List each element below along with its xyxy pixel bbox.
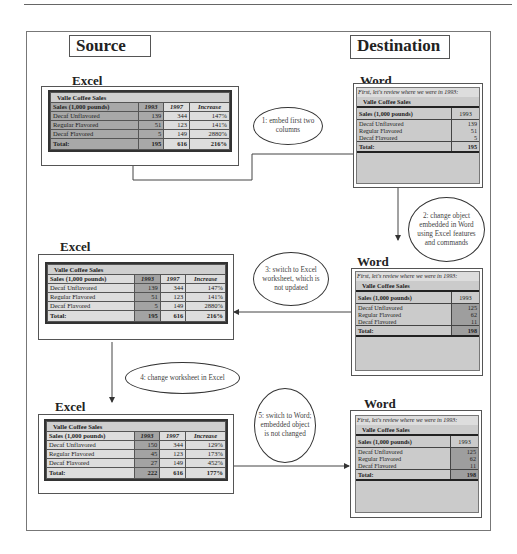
table-row: Decaf Flavored51492880% xyxy=(48,302,226,311)
cell-1997[interactable]: 149 xyxy=(160,459,186,468)
word-table-unchanged: First, let's review where we were in 199… xyxy=(355,415,479,513)
row-label: Regular Flavored xyxy=(356,311,451,318)
row-label: Decaf Unflavored xyxy=(356,448,451,456)
total-label: Total: xyxy=(357,142,452,153)
table-row: Regular Flavored51123141% xyxy=(51,121,230,130)
row-label: Decaf Flavored xyxy=(356,318,451,326)
column-header-1997: 1997 xyxy=(160,275,186,284)
row-label: Regular Flavored xyxy=(356,455,451,462)
destination-header: Destination xyxy=(350,35,450,59)
total-1997[interactable]: 616 xyxy=(160,468,186,479)
cell-1997[interactable]: 344 xyxy=(164,112,190,121)
excel-label: Excel xyxy=(60,240,90,254)
cell-1997[interactable]: 344 xyxy=(160,284,186,293)
cell-1993[interactable]: 51 xyxy=(135,293,161,302)
cell-1993: 125 xyxy=(451,448,478,456)
table-row: Regular Flavored51123141% xyxy=(48,293,226,302)
step-3-ellipse: 3: switch to Excel worksheet, which is n… xyxy=(253,252,329,306)
column-header-label: Sales (1,000 pounds) xyxy=(357,107,452,120)
source-header: Source xyxy=(69,35,151,57)
total-1997[interactable]: 616 xyxy=(160,311,186,322)
excel-label: Excel xyxy=(55,400,85,414)
cell-1993[interactable]: 27 xyxy=(134,459,160,468)
excel-table-original: Valle Coffee SalesSales (1,000 pounds)19… xyxy=(48,90,232,152)
total-1993: 195 xyxy=(452,142,479,153)
table-title: Valle Coffee Sales xyxy=(51,93,230,103)
total-increase[interactable]: 216% xyxy=(186,311,226,322)
table-title: Valle Coffee Sales xyxy=(47,422,226,432)
table-row: Decaf Flavored11 xyxy=(356,318,479,326)
row-label: Regular Flavored xyxy=(47,450,135,459)
total-1993[interactable]: 222 xyxy=(134,468,160,479)
cell-1997[interactable]: 123 xyxy=(164,121,190,130)
cell-1993[interactable]: 5 xyxy=(135,302,161,311)
cell-increase[interactable]: 141% xyxy=(189,121,229,130)
cell-1997[interactable]: 149 xyxy=(164,130,190,139)
column-header-label: Sales (1,000 pounds) xyxy=(51,103,139,112)
cell-1993: 5 xyxy=(452,134,479,142)
total-label: Total: xyxy=(356,326,451,337)
row-label: Decaf Unflavored xyxy=(47,441,135,450)
cell-1997[interactable]: 123 xyxy=(160,450,186,459)
step-4-ellipse: 4: change worksheet in Excel xyxy=(125,362,240,394)
column-header-increase: Increase xyxy=(185,432,225,441)
total-increase[interactable]: 177% xyxy=(185,468,225,479)
cell-increase[interactable]: 141% xyxy=(186,293,226,302)
total-row: Total:222616177% xyxy=(47,468,226,479)
table-row: Decaf Unflavored125 xyxy=(356,304,479,312)
cell-increase[interactable]: 147% xyxy=(186,284,226,293)
cell-1993[interactable]: 45 xyxy=(134,450,160,459)
step-1-ellipse: 1: embed first two columns xyxy=(253,107,323,145)
row-label: Decaf Flavored xyxy=(51,130,139,139)
word-label: Word xyxy=(364,397,396,411)
row-label: Decaf Unflavored xyxy=(48,284,135,293)
column-header-1993: 1993 xyxy=(135,275,161,284)
row-label: Decaf Unflavored xyxy=(51,112,139,121)
row-label: Regular Flavored xyxy=(51,121,139,130)
column-header-increase: Increase xyxy=(186,275,226,284)
cell-1993[interactable]: 139 xyxy=(135,284,161,293)
excel-table-changed: Valle Coffee SalesSales (1,000 pounds)19… xyxy=(44,419,228,481)
table-row: Decaf Unflavored139344147% xyxy=(51,112,230,121)
cell-1997[interactable]: 149 xyxy=(160,302,186,311)
row-label: Decaf Unflavored xyxy=(356,304,451,312)
total-increase[interactable]: 216% xyxy=(189,139,229,150)
cell-1997[interactable]: 344 xyxy=(160,441,186,450)
cell-increase[interactable]: 173% xyxy=(185,450,225,459)
cell-1993[interactable]: 139 xyxy=(138,112,164,121)
cell-increase[interactable]: 2880% xyxy=(186,302,226,311)
cell-1993[interactable]: 5 xyxy=(138,130,164,139)
column-header-1993: 1993 xyxy=(451,291,479,304)
total-row: Total:195616216% xyxy=(51,139,230,150)
table-row: Decaf Unflavored150344129% xyxy=(47,441,226,450)
total-1997[interactable]: 616 xyxy=(164,139,190,150)
cell-1997[interactable]: 123 xyxy=(160,293,186,302)
total-row: Total:198 xyxy=(356,470,478,481)
total-label: Total: xyxy=(47,468,135,479)
column-header-label: Sales (1,000 pounds) xyxy=(356,291,451,304)
table-row: Regular Flavored45123173% xyxy=(47,450,226,459)
column-header-1993: 1993 xyxy=(138,103,164,112)
total-1993[interactable]: 195 xyxy=(135,311,161,322)
table-title: Valle Coffee Sales xyxy=(356,281,479,290)
table-row: Decaf Flavored51492880% xyxy=(51,130,230,139)
column-header-1997: 1997 xyxy=(164,103,190,112)
cell-increase[interactable]: 452% xyxy=(185,459,225,468)
total-1993[interactable]: 195 xyxy=(138,139,164,150)
total-1993: 198 xyxy=(451,470,478,481)
word-table-changed: First, let's review where we were in 199… xyxy=(355,271,480,371)
cell-1993: 139 xyxy=(452,120,479,128)
table-title: Valle Coffee Sales xyxy=(48,265,226,275)
cell-1993[interactable]: 150 xyxy=(134,441,160,450)
total-1993: 198 xyxy=(451,326,479,337)
cell-1993[interactable]: 51 xyxy=(138,121,164,130)
step-5-ellipse: 5: switch to Word; embedded object is no… xyxy=(254,388,316,463)
row-label: Decaf Flavored xyxy=(48,302,135,311)
cell-increase[interactable]: 2880% xyxy=(189,130,229,139)
table-row: Decaf Unflavored139344147% xyxy=(48,284,226,293)
cell-increase[interactable]: 129% xyxy=(185,441,225,450)
table-title: Valle Coffee Sales xyxy=(356,425,478,434)
cell-increase[interactable]: 147% xyxy=(189,112,229,121)
table-row: Regular Flavored62 xyxy=(356,311,479,318)
cell-1993: 125 xyxy=(451,304,479,312)
